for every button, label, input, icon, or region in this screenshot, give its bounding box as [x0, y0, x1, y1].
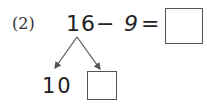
right-branch-arrow	[77, 37, 100, 69]
left-part-value: 10	[42, 76, 73, 97]
right-part-box[interactable]	[87, 71, 117, 100]
left-branch-arrow	[55, 37, 77, 68]
